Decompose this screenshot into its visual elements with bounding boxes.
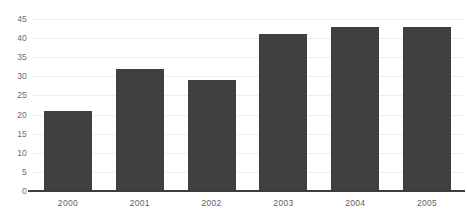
y-tick-label: 30	[3, 71, 27, 81]
bar[interactable]	[331, 27, 379, 191]
x-tick-label: 2004	[345, 198, 365, 208]
x-axis-line	[28, 190, 465, 192]
bar[interactable]	[188, 80, 236, 191]
y-tick-label: 5	[3, 167, 27, 177]
bar-chart: 051015202530354045 200020012002200320042…	[0, 0, 467, 222]
bar[interactable]	[259, 34, 307, 191]
y-tick-label: 25	[3, 90, 27, 100]
bar[interactable]	[116, 69, 164, 191]
y-tick-label: 45	[3, 14, 27, 24]
x-tick-label: 2005	[417, 198, 437, 208]
y-axis: 051015202530354045	[0, 0, 27, 222]
bar[interactable]	[44, 111, 92, 191]
y-tick-label: 15	[3, 129, 27, 139]
x-tick-label: 2000	[58, 198, 78, 208]
bar[interactable]	[403, 27, 451, 191]
y-tick-label: 40	[3, 33, 27, 43]
y-tick-label: 35	[3, 52, 27, 62]
x-tick-label: 2002	[202, 198, 222, 208]
y-tick-label: 0	[3, 186, 27, 196]
y-tick-label: 20	[3, 110, 27, 120]
y-tick-label: 10	[3, 148, 27, 158]
x-tick-label: 2001	[130, 198, 150, 208]
bars-layer	[32, 19, 463, 191]
x-tick-label: 2003	[273, 198, 293, 208]
